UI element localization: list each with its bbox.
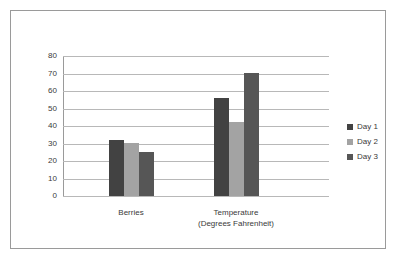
bar-day-1 <box>214 98 229 196</box>
y-tick-label: 50 <box>17 105 57 113</box>
legend-label: Day 3 <box>357 153 378 161</box>
legend-swatch-icon <box>347 139 353 145</box>
legend-label: Day 2 <box>357 138 378 146</box>
category-label-line: Temperature <box>176 207 296 218</box>
chart-frame: 01020304050607080 BerriesTemperature(Deg… <box>10 10 386 249</box>
gridline <box>63 179 329 180</box>
gridline <box>63 144 329 145</box>
legend-label: Day 1 <box>357 123 378 131</box>
gridline <box>63 126 329 127</box>
y-tick-label: 20 <box>17 157 57 165</box>
bar-day-3 <box>244 73 259 196</box>
legend-item-day-1[interactable]: Day 1 <box>347 119 378 134</box>
gridline <box>63 74 329 75</box>
y-tick-label: 10 <box>17 175 57 183</box>
bar-day-3 <box>139 152 154 196</box>
category-label: Berries <box>71 207 191 218</box>
gridline <box>63 196 329 197</box>
category-label: Temperature(Degrees Fahrenheit) <box>176 207 296 229</box>
legend-swatch-icon <box>347 154 353 160</box>
gridline <box>63 161 329 162</box>
bar-day-1 <box>109 140 124 196</box>
category-label-line: Berries <box>71 207 191 218</box>
plot-area <box>63 56 329 196</box>
y-tick-label: 30 <box>17 140 57 148</box>
gridline <box>63 91 329 92</box>
bar-day-2 <box>124 143 139 196</box>
chart-legend: Day 1Day 2Day 3 <box>347 119 378 164</box>
y-tick-label: 70 <box>17 70 57 78</box>
bar-day-2 <box>229 122 244 196</box>
gridline <box>63 109 329 110</box>
legend-swatch-icon <box>347 124 353 130</box>
chart-screenshot: 01020304050607080 BerriesTemperature(Deg… <box>0 0 397 260</box>
y-tick-label: 0 <box>17 192 57 200</box>
legend-item-day-2[interactable]: Day 2 <box>347 134 378 149</box>
y-tick-label: 80 <box>17 52 57 60</box>
y-tick-label: 60 <box>17 87 57 95</box>
legend-item-day-3[interactable]: Day 3 <box>347 149 378 164</box>
category-label-line: (Degrees Fahrenheit) <box>176 218 296 229</box>
y-tick-label: 40 <box>17 122 57 130</box>
gridline <box>63 56 329 57</box>
